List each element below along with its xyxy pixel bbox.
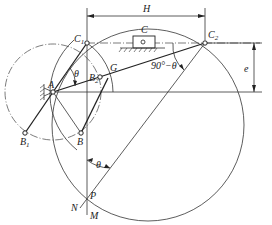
- a-label: A: [47, 79, 55, 90]
- link-a-c1: [53, 43, 87, 92]
- ground-a-hatch: [40, 85, 44, 100]
- theta-bottom-arrow-right: [104, 164, 110, 168]
- e-arrow-bottom: [252, 85, 256, 92]
- ground-hatch: [119, 48, 157, 52]
- theta-bottom-arrow-left: [87, 158, 93, 162]
- slider-pin: [141, 40, 145, 44]
- c2-label: C2: [208, 29, 219, 42]
- diagram-svg: H C e C1: [0, 0, 272, 225]
- n-label: N: [70, 202, 79, 213]
- joint-b1: [23, 131, 27, 135]
- arc-ac2-small: [50, 40, 77, 150]
- crank-a-b: [53, 92, 81, 133]
- g-label: G: [110, 62, 117, 73]
- b2-label: B2: [89, 72, 99, 85]
- h-arrow-right: [198, 14, 205, 18]
- joint-b: [79, 131, 83, 135]
- mechanism-diagram: H C e C1: [0, 0, 272, 225]
- joint-c1: [85, 41, 89, 45]
- b1-label: B1: [20, 136, 30, 149]
- angle-90-arrow: [179, 64, 184, 70]
- theta-top-label: θ: [74, 68, 79, 79]
- joint-c2: [203, 41, 207, 45]
- design-circle: [52, 29, 244, 221]
- joint-a: [51, 90, 55, 94]
- angle-90-label: 90°−θ: [151, 60, 177, 71]
- c1-label: C1: [74, 33, 84, 46]
- theta-bottom-label: θ: [96, 159, 101, 170]
- line-c2-n: [80, 43, 205, 208]
- c-label: C: [141, 24, 148, 35]
- h-arrow-left: [87, 14, 94, 18]
- m-label: M: [89, 210, 99, 221]
- crank-a-b1: [25, 92, 53, 133]
- p-label: P: [89, 190, 96, 201]
- b-label: B: [77, 136, 83, 147]
- e-arrow-top: [252, 43, 256, 50]
- e-label: e: [244, 63, 249, 74]
- h-label: H: [142, 3, 151, 14]
- coupler-b-c1: [81, 78, 108, 133]
